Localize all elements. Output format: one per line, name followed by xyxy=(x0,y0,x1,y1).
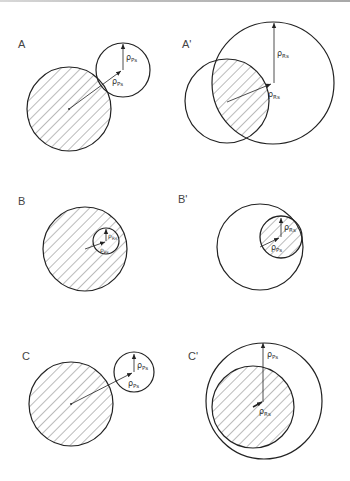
rho-ps-label-2: ρPs xyxy=(128,379,139,389)
rho-ps-label: ρPs xyxy=(137,361,148,371)
panel-b-prime: ρRs ρPs xyxy=(217,204,303,290)
panel-a: ρPs ρPs xyxy=(27,43,150,151)
rho-rs-label: ρRs xyxy=(277,49,289,59)
circle-diagram: ρPs ρPs ρRs ρRs ρRs ρPs ρRs ρPs ρPs xyxy=(0,0,350,481)
rho-ps-label: ρPs xyxy=(267,350,278,360)
panel-c-prime: ρPs ρRs xyxy=(206,343,322,459)
rho-rs-label-2: ρRs xyxy=(268,90,280,100)
panel-c: ρPs ρPs xyxy=(29,352,154,446)
panel-a-prime: ρRs ρRs xyxy=(185,22,334,144)
panel-b: ρRs ρPs xyxy=(43,207,127,291)
rho-ps-label-2: ρPs xyxy=(112,77,123,87)
rho-ps-label: ρPs xyxy=(126,53,137,63)
intersection-hatch xyxy=(212,22,334,144)
